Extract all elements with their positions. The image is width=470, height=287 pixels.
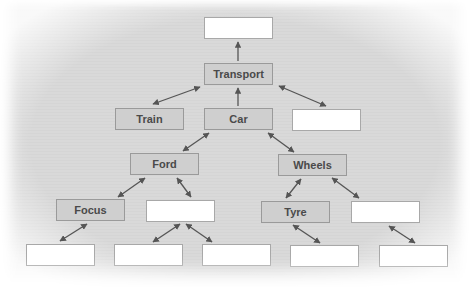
node-label: Ford [152,158,176,170]
node-bottom-4-blank [290,245,359,267]
node-ford: Ford [130,153,199,175]
node-bottom-5-blank [379,245,448,267]
node-train: Train [115,108,184,130]
node-car: Car [204,108,273,130]
arrow-transport-train [153,87,200,104]
node-top-blank [204,17,273,39]
node-label: Car [229,113,247,125]
node-bottom-3-blank [202,244,271,266]
node-wheels: Wheels [278,154,347,176]
arrow-fordblank-b2 [153,224,180,242]
node-label: Wheels [293,159,332,171]
node-label: Tyre [284,206,306,218]
arrow-car-ford [183,133,209,151]
node-transport: Transport [204,63,273,85]
node-label: Train [136,113,162,125]
node-tyre: Tyre [261,201,330,223]
node-level2-right-blank [292,109,361,131]
node-label: Transport [213,68,264,80]
arrow-focus-b1 [60,224,87,241]
arrow-transport-blank-right [279,86,326,106]
arrow-fordblank-b3 [186,224,212,242]
node-ford-child-blank [146,200,215,222]
arrow-car-wheels [268,133,294,152]
diagram-canvas: Transport Train Car Ford Wheels Focus Ty… [0,0,470,287]
arrow-ford-blank [177,178,191,197]
node-bottom-2-blank [114,244,183,266]
node-wheels-child-blank [351,201,420,223]
node-label: Focus [74,204,106,216]
arrow-ford-focus [118,178,145,197]
arrow-tyre-b4 [293,225,320,243]
node-bottom-1-blank [26,244,95,266]
arrow-wheelsblank-b5 [389,226,415,243]
arrow-wheels-blank [332,178,359,198]
arrow-wheels-tyre [286,179,301,198]
node-focus: Focus [56,199,125,221]
